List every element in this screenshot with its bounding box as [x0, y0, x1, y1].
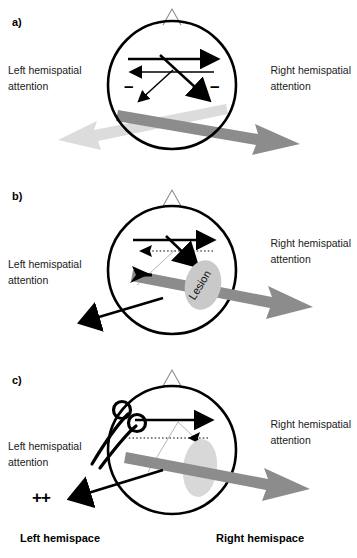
- panel-c-right-attention-arrow: [124, 452, 310, 501]
- panel-a-diagram: – –: [0, 0, 357, 180]
- panel-a-diagonal-down-left-arrow: [139, 70, 173, 101]
- panel-b-lesion-group: Lesion: [180, 257, 226, 313]
- panel-a-diagonal-down-right-arrow: [160, 55, 208, 99]
- footer-right-hemispace-label: Right hemispace: [216, 532, 304, 544]
- panel-b-deviation-arrow: [82, 298, 163, 322]
- figure-root: a) Left hemispatial attention Right hemi…: [0, 0, 357, 558]
- panel-c-diagram: [0, 360, 357, 520]
- panel-b-diagram: Lesion: [0, 180, 357, 360]
- panel-a-minus-right: –: [210, 77, 219, 96]
- panel-a: a) Left hemispatial attention Right hemi…: [0, 0, 357, 180]
- panel-a-minus-left: –: [124, 77, 133, 96]
- footer-left-hemispace-label: Left hemispace: [20, 532, 100, 544]
- footer: Left hemispace Right hemispace: [0, 520, 357, 558]
- panel-b: b) Left hemispatial attention Right hemi…: [0, 180, 357, 360]
- panel-c-nose: [163, 370, 181, 386]
- panel-c-deviation-arrow: [72, 470, 163, 498]
- panel-b-nose: [163, 190, 181, 206]
- panel-c: c) Left hemispatial attention Right hemi…: [0, 360, 357, 520]
